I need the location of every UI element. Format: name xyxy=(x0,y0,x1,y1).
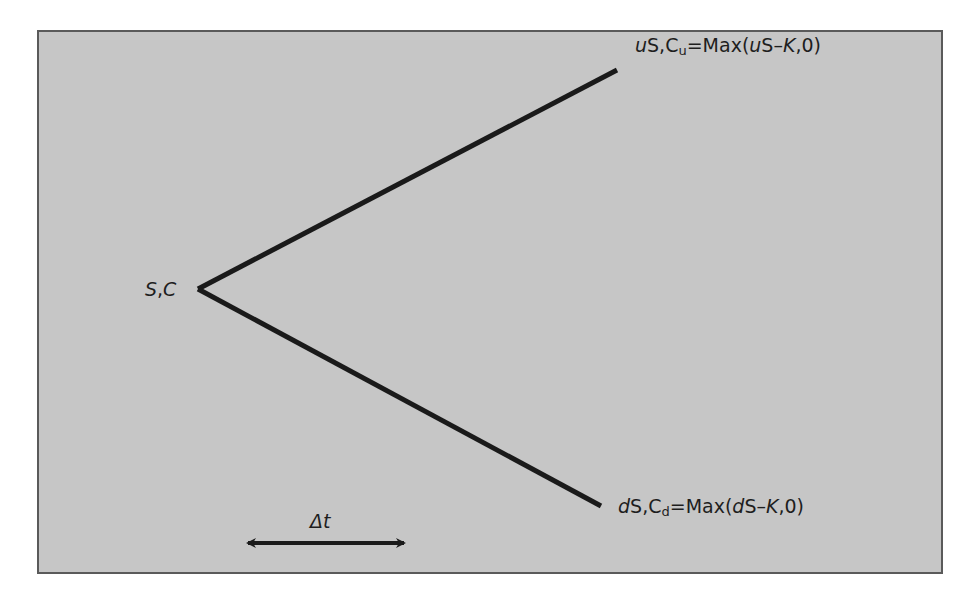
down-branch xyxy=(198,289,601,506)
down-node-label: dS,Cd=Max(dS–K,0) xyxy=(618,495,804,519)
root-node-label: S,C xyxy=(145,278,176,300)
time-step-label: Δt xyxy=(310,510,330,532)
up-node-label: uS,Cu=Max(uS–K,0) xyxy=(635,34,821,58)
binomial-tree xyxy=(0,0,976,606)
up-branch xyxy=(198,70,617,289)
